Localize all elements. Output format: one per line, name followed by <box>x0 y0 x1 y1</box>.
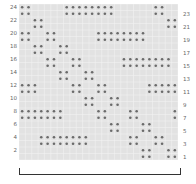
stitch-dot <box>123 38 126 41</box>
row-label-left: 10 <box>8 95 17 101</box>
row-label-left: 22 <box>8 17 17 23</box>
stitch-dot <box>46 58 49 61</box>
stitch-dot <box>72 58 75 61</box>
stitch-dot <box>34 51 37 54</box>
stitch-dot <box>65 136 68 139</box>
stitch-dot <box>91 103 94 106</box>
stitch-dot <box>154 64 157 67</box>
stitch-dot <box>78 64 81 67</box>
row-label-right: 19 <box>183 37 193 43</box>
stitch-dot <box>84 142 87 145</box>
stitch-dot <box>27 38 30 41</box>
stitch-dot <box>154 6 157 9</box>
stitch-dot <box>84 103 87 106</box>
stitch-dot <box>135 58 138 61</box>
stitch-dot <box>84 97 87 100</box>
stitch-dot <box>129 110 132 113</box>
stitch-dot <box>174 149 177 152</box>
stitch-dot <box>167 90 170 93</box>
stitch-dot <box>135 136 138 139</box>
stitch-dot <box>116 103 119 106</box>
stitch-dot <box>148 84 151 87</box>
repeat-bracket <box>19 168 181 175</box>
stitch-dot <box>21 90 24 93</box>
stitch-dot <box>40 110 43 113</box>
stitch-dot <box>167 64 170 67</box>
stitch-dot <box>167 19 170 22</box>
stitch-dot <box>129 38 132 41</box>
row-label-left: 18 <box>8 43 17 49</box>
stitch-dot <box>59 45 62 48</box>
stitch-dot <box>161 12 164 15</box>
stitch-dot <box>27 116 30 119</box>
stitch-dot <box>21 6 24 9</box>
stitch-dot <box>104 38 107 41</box>
stitch-dot <box>78 84 81 87</box>
stitch-dot <box>34 45 37 48</box>
stitch-dot <box>91 97 94 100</box>
stitch-dot <box>53 58 56 61</box>
stitch-dot <box>21 116 24 119</box>
stitch-dot <box>84 77 87 80</box>
stitch-dot <box>123 32 126 35</box>
stitch-dot <box>21 110 24 113</box>
stitch-dot <box>46 116 49 119</box>
stitch-dot <box>46 38 49 41</box>
stitch-dot <box>53 142 56 145</box>
stitch-dot <box>34 19 37 22</box>
row-label-right: 23 <box>183 11 193 17</box>
row-label-right: 1 <box>183 154 193 160</box>
stitch-dot <box>167 58 170 61</box>
stitch-dot <box>116 38 119 41</box>
row-label-right: 3 <box>183 141 193 147</box>
stitch-dot <box>53 38 56 41</box>
row-label-left: 2 <box>8 147 17 153</box>
stitch-dot <box>72 12 75 15</box>
stitch-dot <box>110 38 113 41</box>
stitch-dot <box>135 110 138 113</box>
stitch-dot <box>161 90 164 93</box>
stitch-dot <box>142 149 145 152</box>
stitch-dot <box>97 110 100 113</box>
stitch-dot <box>34 116 37 119</box>
stitch-dot <box>21 32 24 35</box>
stitch-dot <box>72 84 75 87</box>
stitch-dot <box>142 123 145 126</box>
stitch-dot <box>46 64 49 67</box>
stitch-dot <box>97 38 100 41</box>
stitch-dot <box>129 142 132 145</box>
stitch-dot <box>142 38 145 41</box>
stitch-dot <box>97 32 100 35</box>
stitch-dot <box>59 51 62 54</box>
stitch-dot <box>40 51 43 54</box>
stitch-dot <box>104 84 107 87</box>
stitch-dot <box>110 103 113 106</box>
stitch-dot <box>40 25 43 28</box>
stitch-dot <box>59 116 62 119</box>
stitch-dot <box>174 90 177 93</box>
stitch-dot <box>116 123 119 126</box>
stitch-dot <box>53 110 56 113</box>
stitch-dot <box>27 6 30 9</box>
row-label-left: 4 <box>8 134 17 140</box>
stitch-dot <box>135 38 138 41</box>
stitch-dot <box>91 6 94 9</box>
stitch-dot <box>84 71 87 74</box>
stitch-dot <box>154 142 157 145</box>
stitch-dot <box>148 129 151 132</box>
stitch-dot <box>148 90 151 93</box>
stitch-dot <box>116 32 119 35</box>
row-label-left: 16 <box>8 56 17 62</box>
stitch-dot <box>53 64 56 67</box>
stitch-dot <box>21 38 24 41</box>
stitch-dot <box>34 25 37 28</box>
stitch-dot <box>104 32 107 35</box>
stitch-dot <box>110 129 113 132</box>
stitch-dot <box>110 12 113 15</box>
stitch-dot <box>72 6 75 9</box>
row-label-left: 8 <box>8 108 17 114</box>
stitch-dot <box>46 136 49 139</box>
stitch-dot <box>27 84 30 87</box>
stitch-dot <box>21 84 24 87</box>
stitch-dot <box>53 32 56 35</box>
